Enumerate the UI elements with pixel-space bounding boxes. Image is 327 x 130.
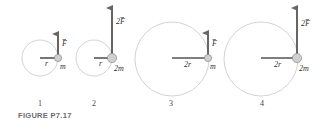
panel-2: r 2m 2F 2 <box>76 8 125 108</box>
panel-number: 4 <box>260 99 264 108</box>
mass-ball <box>107 53 116 62</box>
mass-ball <box>204 54 211 61</box>
diagram-canvas: r m F 1 r 2m 2F 2 <box>0 0 327 130</box>
panel-number: 1 <box>38 99 42 108</box>
figure-caption: FIGURE P7.17 <box>18 111 72 120</box>
radius-label: 2r <box>274 60 282 69</box>
radius-label: r <box>45 59 49 68</box>
panel-3: 2r m F 3 <box>135 22 217 108</box>
figure-p7-17: r m F 1 r 2m 2F 2 <box>0 0 327 130</box>
mass-label: 2m <box>114 64 124 73</box>
mass-ball <box>54 54 61 61</box>
mass-label: m <box>60 62 66 71</box>
panel-number: 3 <box>169 99 173 108</box>
force-label: F <box>211 39 217 48</box>
radius-label: r <box>99 59 103 68</box>
force-label: 2F <box>116 17 125 26</box>
mass-ball <box>292 53 301 62</box>
panel-4: 2r 2m 2F 4 <box>224 8 310 108</box>
radius-label: 2r <box>184 60 192 69</box>
panel-number: 2 <box>92 99 96 108</box>
force-label: 2F <box>301 19 310 28</box>
mass-label: 2m <box>299 64 309 73</box>
panel-1: r m F 1 <box>22 34 67 108</box>
orbit-circle <box>135 22 209 96</box>
mass-label: m <box>210 62 216 71</box>
force-label: F <box>61 39 67 48</box>
orbit-circle <box>224 22 298 96</box>
